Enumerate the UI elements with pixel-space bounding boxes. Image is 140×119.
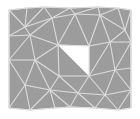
mesh-diagram: [0, 0, 140, 119]
mesh-canvas: [0, 0, 140, 119]
